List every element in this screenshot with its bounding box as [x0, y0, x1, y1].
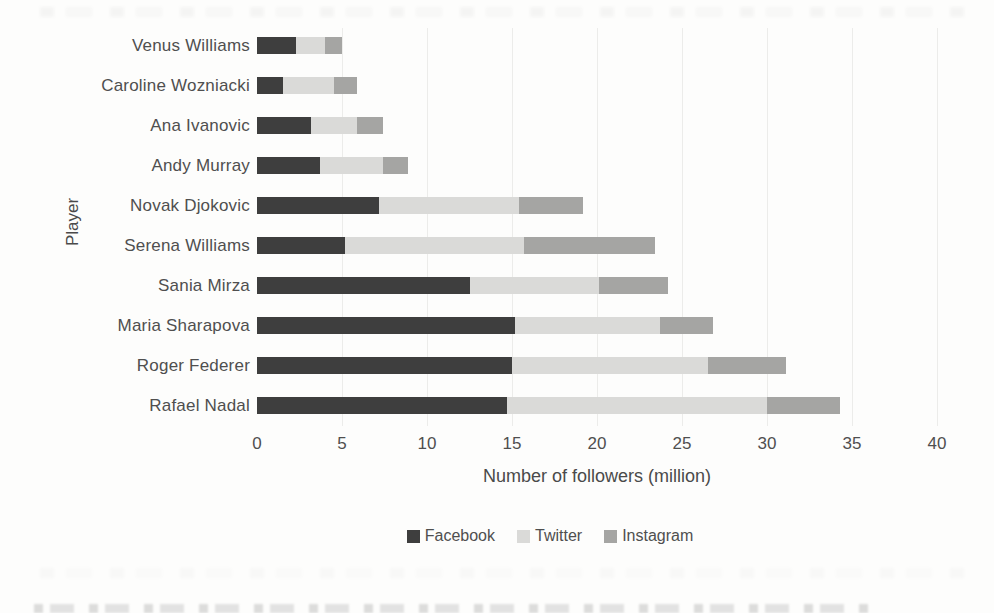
bar-segment-twitter [512, 357, 708, 374]
bar-row: Serena Williams [0, 226, 994, 266]
bar-segment-twitter [320, 157, 383, 174]
bar-row: Caroline Wozniacki [0, 66, 994, 106]
x-tick-10: 10 [418, 434, 437, 454]
category-label: Sania Mirza [55, 266, 250, 306]
category-label: Caroline Wozniacki [55, 66, 250, 106]
bar-row: Rafael Nadal [0, 386, 994, 426]
bar-segment-instagram [599, 277, 669, 294]
bar-segment-twitter [470, 277, 599, 294]
bar-segment-twitter [345, 237, 524, 254]
bar-segment-twitter [311, 117, 357, 134]
category-label: Venus Williams [55, 26, 250, 66]
scanned-bar-chart-figure: Player Number of followers (million) Fac… [0, 0, 994, 613]
bar-segment-instagram [708, 357, 786, 374]
legend-label-instagram: Instagram [622, 527, 693, 545]
bar-segment-instagram [660, 317, 713, 334]
bar-segment-instagram [524, 237, 655, 254]
bar-segment-twitter [507, 397, 767, 414]
legend-item-twitter: Twitter [517, 527, 582, 545]
legend-label-twitter: Twitter [535, 527, 582, 545]
legend-item-instagram: Instagram [604, 527, 693, 545]
bar-segment-instagram [357, 117, 383, 134]
legend-label-facebook: Facebook [425, 527, 495, 545]
legend-swatch-instagram [604, 530, 617, 543]
bar-segment-facebook [257, 77, 283, 94]
legend-swatch-twitter [517, 530, 530, 543]
bar-segment-facebook [257, 237, 345, 254]
x-tick-40: 40 [928, 434, 947, 454]
bar-segment-instagram [334, 77, 358, 94]
bar-row: Roger Federer [0, 346, 994, 386]
bar-segment-instagram [325, 37, 342, 54]
bar-segment-facebook [257, 197, 379, 214]
legend-item-facebook: Facebook [407, 527, 495, 545]
x-tick-35: 35 [843, 434, 862, 454]
chart-legend: FacebookTwitterInstagram [180, 527, 920, 545]
bar-segment-twitter [379, 197, 518, 214]
bar-segment-twitter [283, 77, 334, 94]
bar-segment-facebook [257, 117, 311, 134]
x-tick-5: 5 [337, 434, 346, 454]
bar-segment-facebook [257, 277, 470, 294]
bar-segment-facebook [257, 37, 296, 54]
x-tick-0: 0 [252, 434, 261, 454]
x-tick-20: 20 [588, 434, 607, 454]
scan-bleed-through-middle [40, 568, 964, 578]
legend-swatch-facebook [407, 530, 420, 543]
category-label: Andy Murray [55, 146, 250, 186]
category-label: Roger Federer [55, 346, 250, 386]
bar-segment-facebook [257, 357, 512, 374]
category-label: Rafael Nadal [55, 386, 250, 426]
bar-row: Ana Ivanovic [0, 106, 994, 146]
bar-segment-twitter [515, 317, 660, 334]
plot-area: Player Number of followers (million) Fac… [0, 0, 994, 613]
bar-segment-instagram [767, 397, 840, 414]
bar-row: Novak Djokovic [0, 186, 994, 226]
bar-segment-instagram [383, 157, 409, 174]
category-label: Maria Sharapova [55, 306, 250, 346]
x-tick-25: 25 [673, 434, 692, 454]
bar-row: Maria Sharapova [0, 306, 994, 346]
x-tick-15: 15 [503, 434, 522, 454]
bar-row: Venus Williams [0, 26, 994, 66]
bar-row: Andy Murray [0, 146, 994, 186]
bar-segment-twitter [296, 37, 325, 54]
category-label: Serena Williams [55, 226, 250, 266]
bar-segment-facebook [257, 317, 515, 334]
bar-segment-facebook [257, 157, 320, 174]
category-label: Ana Ivanovic [55, 106, 250, 146]
x-tick-30: 30 [758, 434, 777, 454]
cut-off-caption-text [34, 604, 874, 613]
category-label: Novak Djokovic [55, 186, 250, 226]
bar-row: Sania Mirza [0, 266, 994, 306]
bar-segment-facebook [257, 397, 507, 414]
bar-segment-instagram [519, 197, 584, 214]
x-axis-title: Number of followers (million) [257, 466, 937, 487]
